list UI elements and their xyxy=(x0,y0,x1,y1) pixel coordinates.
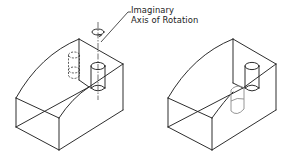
axis-annotation-label: Imaginary Axis of Rotation xyxy=(131,6,198,25)
cylinder-top-right xyxy=(245,62,259,91)
leader-line xyxy=(101,12,128,42)
diagram-canvas: Imaginary Axis of Rotation xyxy=(0,0,290,158)
hidden-cylinder-original-position xyxy=(69,52,80,79)
right-block xyxy=(168,39,276,150)
left-block xyxy=(16,39,123,150)
axis-of-rotation xyxy=(92,22,104,100)
cylinder-rotated-position xyxy=(231,86,244,114)
annotation-line-2: Axis of Rotation xyxy=(131,16,198,26)
